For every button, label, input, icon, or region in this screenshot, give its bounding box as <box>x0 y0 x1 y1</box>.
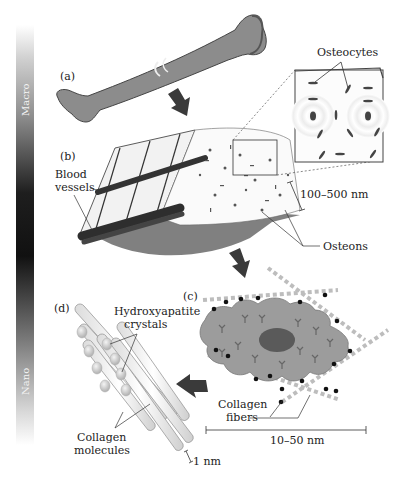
panel-c-tag: (c) <box>183 290 198 303</box>
collagen-molecules-label-2: molecules <box>74 444 130 457</box>
panel-a-tag: (a) <box>60 70 75 83</box>
macro-label: Macro <box>20 83 31 116</box>
hydroxyapatite-label-1: Hydroxyapatite <box>114 305 200 318</box>
arrow-down-icon <box>168 88 190 116</box>
femur-bone <box>57 15 267 122</box>
osteons-label: Osteons <box>323 240 368 253</box>
collagen-fibers-label-2: fibers <box>226 411 258 424</box>
collagen-fibers-label-1: Collagen <box>218 398 267 411</box>
bone-hierarchy-diagram: Macro Nano (a) (b) <box>0 0 404 482</box>
arrow-down-icon-2 <box>229 248 250 278</box>
cell-nucleus <box>259 328 295 352</box>
arrow-left-icon <box>176 374 208 398</box>
panel-d-tag: (d) <box>54 302 70 315</box>
collagen-molecules-label-1: Collagen <box>77 431 126 444</box>
size-label-b: 100–500 nm <box>300 188 369 201</box>
panel-c-cell: (c) <box>183 268 388 447</box>
panel-b-tag: (b) <box>60 150 76 163</box>
blood-vessels-label-2: vessels <box>54 181 95 194</box>
blood-vessels-label-1: Blood <box>55 168 87 181</box>
osteocyte-inset: Osteocytes <box>291 46 390 162</box>
scale-bar: Macro Nano <box>16 25 34 445</box>
hydroxyapatite-label-2: crystals <box>124 318 168 331</box>
nano-label: Nano <box>20 368 31 395</box>
size-label-c: 10–50 nm <box>270 434 325 447</box>
size-label-d: 1 nm <box>193 455 222 468</box>
osteocytes-label: Osteocytes <box>317 46 379 59</box>
panel-a-femur: (a) <box>57 15 267 122</box>
